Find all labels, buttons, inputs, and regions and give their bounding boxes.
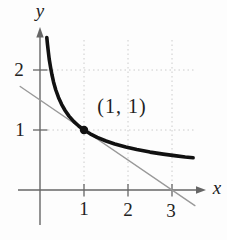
x-axis-label: x: [213, 178, 221, 197]
x-tick-label-2: 2: [123, 200, 133, 219]
y-tick-label-2: 2: [14, 60, 24, 79]
y-tick-label-1: 1: [15, 120, 25, 139]
plot-canvas: [0, 0, 227, 240]
x-tick-label-3: 3: [166, 201, 176, 220]
marked-point-dot: [80, 126, 88, 134]
point-coordinates-label: (1, 1): [97, 96, 146, 116]
function-plot-figure: y x 2 1 1 2 3 (1, 1): [0, 0, 227, 240]
y-axis-arrow-icon: [36, 27, 43, 38]
y-axis-label: y: [36, 1, 44, 20]
x-tick-label-1: 1: [79, 199, 89, 218]
x-axis-arrow-icon: [196, 186, 206, 193]
